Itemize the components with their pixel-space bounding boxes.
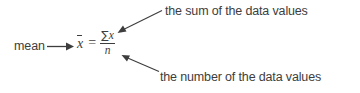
- x-bar-symbol: x: [77, 34, 83, 52]
- annotation-sum-of-data-values: the sum of the data values: [165, 5, 308, 18]
- overline-bar: [77, 35, 82, 36]
- formula-mean: x = ∑x n: [77, 30, 115, 56]
- sigma-icon: ∑: [101, 30, 108, 41]
- arrow-mean-to-formula: [47, 43, 74, 51]
- arrow-to-denominator: [122, 55, 160, 72]
- x-bar-variable: x: [77, 36, 83, 51]
- fraction-denominator: n: [105, 44, 111, 57]
- label-mean: mean: [14, 40, 45, 53]
- equals-sign: =: [88, 35, 96, 51]
- arrow-to-numerator: [118, 11, 163, 34]
- fraction-numerator: ∑x: [100, 30, 115, 43]
- fraction: ∑x n: [100, 30, 115, 56]
- annotation-number-of-data-values: the number of the data values: [160, 71, 321, 84]
- numerator-variable: x: [109, 30, 114, 42]
- mean-formula-diagram: mean x = ∑x n the sum of the data values…: [0, 0, 360, 93]
